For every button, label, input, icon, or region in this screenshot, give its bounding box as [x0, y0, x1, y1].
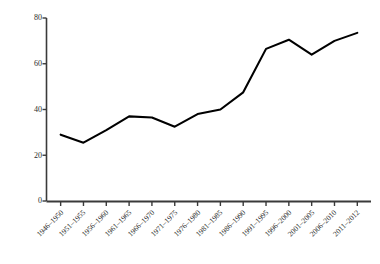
x-axis-tick-labels: 1946–19501951–19551956–19601961–19651966…: [0, 0, 380, 264]
chart-container: Elections per year 80 60 40 20 0 1946–19…: [0, 0, 380, 264]
